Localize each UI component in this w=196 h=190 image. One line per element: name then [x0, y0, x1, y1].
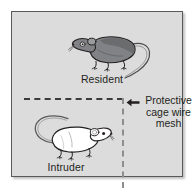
- intruder-mouse-illustration: [31, 112, 115, 164]
- figure-container: Resident Intruder Protective cage wire m…: [0, 0, 196, 190]
- divider-line-horizontal: [24, 98, 123, 100]
- mesh-callout-text: Protective cage wire mesh: [141, 95, 196, 130]
- arrow-left-icon: [126, 96, 140, 109]
- cage-panel: Resident Intruder Protective cage wire m…: [11, 11, 183, 177]
- mesh-callout: Protective cage wire mesh: [126, 95, 196, 130]
- mesh-callout-line-3: mesh: [156, 117, 182, 129]
- divider-line-vertical: [122, 98, 124, 188]
- intruder-label: Intruder: [29, 162, 103, 174]
- mesh-callout-line-1: Protective: [145, 94, 192, 106]
- resident-label: Resident: [70, 74, 134, 86]
- mesh-callout-line-2: cage wire: [146, 106, 191, 118]
